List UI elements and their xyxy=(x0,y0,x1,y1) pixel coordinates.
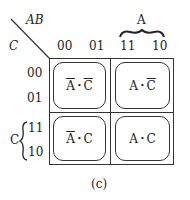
term-var1: A xyxy=(129,132,138,146)
term-var2: C xyxy=(147,132,156,146)
and-dot: • xyxy=(77,81,82,90)
term-var1: A xyxy=(66,79,75,93)
and-dot: • xyxy=(77,134,82,143)
grid-divider-horizontal xyxy=(49,112,174,113)
corner-label-ab: AB xyxy=(26,14,43,26)
curly-brace-icon xyxy=(19,120,29,162)
loop-not-a-not-c: A • C xyxy=(53,62,106,109)
term-var2: C xyxy=(147,79,156,93)
loop-a-c: A • C xyxy=(115,116,170,161)
column-header-00: 00 xyxy=(57,40,72,52)
and-dot: • xyxy=(140,134,145,143)
loop-a-not-c: A • C xyxy=(115,62,170,109)
corner-label-c: C xyxy=(9,40,18,52)
row-header-11: 11 xyxy=(28,122,43,134)
loop-not-a-c: A • C xyxy=(53,116,106,161)
row-header-00: 00 xyxy=(27,67,42,79)
term-var1: A xyxy=(66,132,75,146)
row-header-01: 01 xyxy=(27,92,42,104)
and-dot: • xyxy=(140,81,145,90)
column-header-01: 01 xyxy=(89,40,104,52)
term-var2: C xyxy=(84,132,93,146)
column-header-11: 11 xyxy=(120,40,135,52)
row-header-10: 10 xyxy=(28,146,43,158)
row-group-label-c: C xyxy=(10,134,19,146)
figure-caption: (c) xyxy=(91,178,107,190)
term-var1: A xyxy=(129,79,138,93)
column-header-10: 10 xyxy=(152,40,167,52)
column-group-label-a: A xyxy=(137,14,146,26)
curly-brace-icon xyxy=(118,27,168,39)
term-var2: C xyxy=(84,79,93,93)
